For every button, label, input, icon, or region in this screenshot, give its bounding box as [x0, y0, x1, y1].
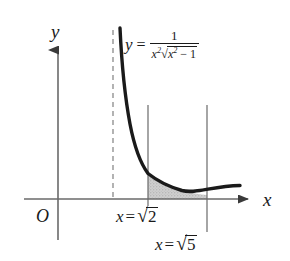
left-bound-equals: = [124, 207, 138, 226]
radicand-minus-sign: − [180, 47, 187, 61]
function-equation-label: y = 1 x2√x2 − 1 [125, 29, 199, 61]
origin-label: O [36, 207, 49, 225]
right-bound-equals: = [163, 235, 177, 254]
left-bound-label: x=√2 [116, 206, 158, 226]
equation-equals-sign: = [137, 37, 146, 53]
y-axis-label: y [51, 22, 59, 41]
right-bound-variable: x [155, 235, 163, 254]
radicand: x2 − 1 [167, 46, 197, 60]
left-bound-variable: x [116, 207, 124, 226]
shaded-region [148, 174, 207, 200]
x-axis-label: x [263, 190, 271, 209]
equation-numerator: 1 [169, 29, 180, 43]
left-bound-radical: √2 [137, 206, 158, 226]
right-bound-radical: √5 [176, 234, 197, 254]
figure-container: y x O y = 1 x2√x2 − 1 x=√2 x=√5 [0, 0, 290, 261]
right-bound-label: x=√5 [155, 234, 197, 254]
denominator-radical: √x2 − 1 [161, 46, 197, 61]
right-bound-value: 5 [185, 235, 198, 253]
equation-fraction: 1 x2√x2 − 1 [150, 29, 200, 61]
radicand-constant: 1 [190, 47, 196, 61]
equation-denominator: x2√x2 − 1 [150, 44, 200, 61]
radicand-exponent: 2 [173, 46, 177, 55]
equation-lhs: y [125, 36, 133, 53]
left-bound-value: 2 [146, 207, 159, 225]
